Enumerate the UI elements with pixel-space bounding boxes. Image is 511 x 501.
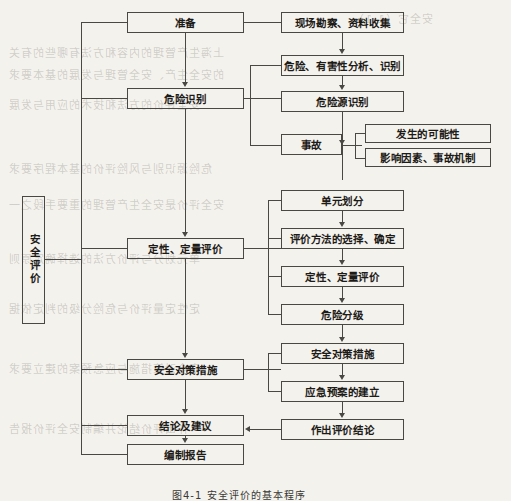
node-hazard-identification[interactable]: 危险识别: [127, 88, 244, 109]
flow-qual-quant-to-safety-measures: [185, 259, 186, 353]
connector-spine-conclusion: [81, 425, 127, 426]
node-prepare[interactable]: 准备: [127, 12, 244, 33]
flow-safety-measures-to-conclusion: [185, 380, 186, 409]
arrow-down-to-hazard-analysis: [339, 49, 345, 54]
bracket-accident-sub-vertical: [355, 133, 356, 158]
arrow-down-to-qual-quant-detail: [339, 260, 345, 265]
arrow-down-to-hazard-grading: [339, 298, 345, 303]
connector-bracket-to-qual-quant-detail: [268, 276, 281, 277]
flow-emergency-plan-to-make-conclusion: [342, 402, 343, 413]
connector-spine-qual-quant: [81, 248, 127, 249]
flow-site-survey-to-hazard-analysis: [342, 33, 343, 49]
node-emergency-plan-establishment[interactable]: 应急预案的建立: [281, 381, 404, 402]
connector-bracket-to-accident: [250, 145, 281, 146]
flow-qual-quant-detail-to-grading: [342, 287, 343, 298]
connector-accident-to-bracket: [342, 145, 362, 146]
connector-bracket-to-unit-division: [268, 200, 281, 201]
flow-prepare-to-hazard-id: [185, 33, 186, 82]
flow-safety-detail-to-emergency-plan: [342, 364, 343, 375]
bracket-hazard-id-vertical: [250, 65, 251, 145]
connector-qual-quant-to-bracket: [244, 248, 281, 249]
flow-source-id-to-accident-branch: [342, 112, 343, 180]
node-site-survey-data-collection[interactable]: 现场勘察、资料收集: [281, 12, 404, 33]
connector-spine-prepare: [81, 22, 127, 23]
node-compile-report[interactable]: 编制报告: [127, 444, 244, 465]
arrow-down-to-source-id: [339, 85, 345, 90]
connector-spine-safety-measures: [81, 369, 127, 370]
flow-grading-to-safety-measures-detail: [342, 325, 343, 337]
connector-bracket-to-method-selection: [268, 238, 281, 239]
ghost-text-line: 上海生产管理的内容和方法有哪些的有关: [8, 44, 224, 60]
node-conclusion-and-suggestions[interactable]: 结论及建议: [127, 415, 244, 436]
arrow-down-to-emergency-plan: [339, 375, 345, 380]
spine-main-left: [81, 22, 82, 454]
connector-spine-compile-report: [81, 454, 127, 455]
connector-bracket-to-hazard-grading: [268, 314, 281, 315]
arrow-down-to-method-selection: [339, 222, 345, 227]
connector-safety-measures-to-bracket: [244, 369, 281, 370]
arrow-down-to-hazard-id: [182, 82, 188, 87]
arrow-left-to-conclusion: [245, 426, 250, 432]
arrow-down-to-safety-measures-detail: [339, 337, 345, 342]
flow-hazard-analysis-to-source-id: [342, 76, 343, 85]
figure-caption: 图4-1 安全评价的基本程序: [172, 487, 306, 501]
arrow-down-to-report: [182, 438, 188, 443]
node-unit-division[interactable]: 单元划分: [281, 190, 404, 211]
arrow-down-to-conclusion: [182, 409, 188, 414]
connector-make-conclusion-to-conclusion: [250, 429, 281, 430]
connector-sub-to-occurrence-probability: [355, 133, 365, 134]
node-influencing-factors-mechanism[interactable]: 影响因素、事故机制: [365, 148, 491, 167]
node-hazard-grading[interactable]: 危险分级: [281, 304, 404, 325]
node-safety-countermeasures-detail[interactable]: 安全对策措施: [281, 343, 404, 364]
node-hazard-harm-analysis[interactable]: 危险、有害性分析、识别: [281, 55, 404, 76]
arrow-down-to-make-conclusion: [339, 413, 345, 418]
node-safety-evaluation-root[interactable]: 安全评价: [22, 196, 45, 324]
ghost-text-line: 的安全生产、安全管理与发展的基本要求: [8, 66, 224, 82]
connector-spine-hazard-id: [81, 98, 127, 99]
node-evaluation-method-selection[interactable]: 评价方法的选择、确定: [281, 228, 404, 249]
node-occurrence-probability[interactable]: 发生的可能性: [365, 124, 491, 143]
node-hazard-source-identification[interactable]: 危险源识别: [281, 91, 404, 112]
bracket-safety-measures-vertical: [268, 353, 269, 391]
node-safety-countermeasures[interactable]: 安全对策措施: [127, 359, 244, 380]
node-make-evaluation-conclusion[interactable]: 作出评价结论: [281, 419, 404, 440]
connector-sub-to-influencing-factors: [355, 158, 365, 159]
node-qualitative-quantitative-detail[interactable]: 定性、定量评价: [281, 266, 404, 287]
flow-method-to-qual-quant-detail: [342, 249, 343, 260]
ghost-text-line: 危险源识别与风险评价的基本程序要求: [8, 160, 212, 176]
node-qualitative-quantitative-evaluation[interactable]: 定性、定量评价: [127, 238, 244, 259]
bracket-qual-quant-vertical: [268, 200, 269, 314]
arrow-down-to-safety-measures: [182, 353, 188, 358]
diagram-page: 安全它（1.1） 上海生产管理的内容和方法有哪些的有关 的安全生产、安全管理与发…: [0, 0, 511, 501]
connector-bracket-to-emergency-plan: [268, 391, 281, 392]
connector-bracket-to-hazard-analysis: [250, 65, 281, 66]
connector-root-to-spine: [45, 259, 82, 260]
arrow-down-to-qual-quant: [182, 232, 188, 237]
connector-bracket-to-safety-measures-detail: [268, 353, 281, 354]
flow-hazard-id-to-qual-quant: [185, 109, 186, 232]
node-accident[interactable]: 事故: [281, 134, 342, 155]
connector-prepare-to-site-survey: [244, 22, 281, 23]
flow-unit-division-to-method: [342, 211, 343, 222]
